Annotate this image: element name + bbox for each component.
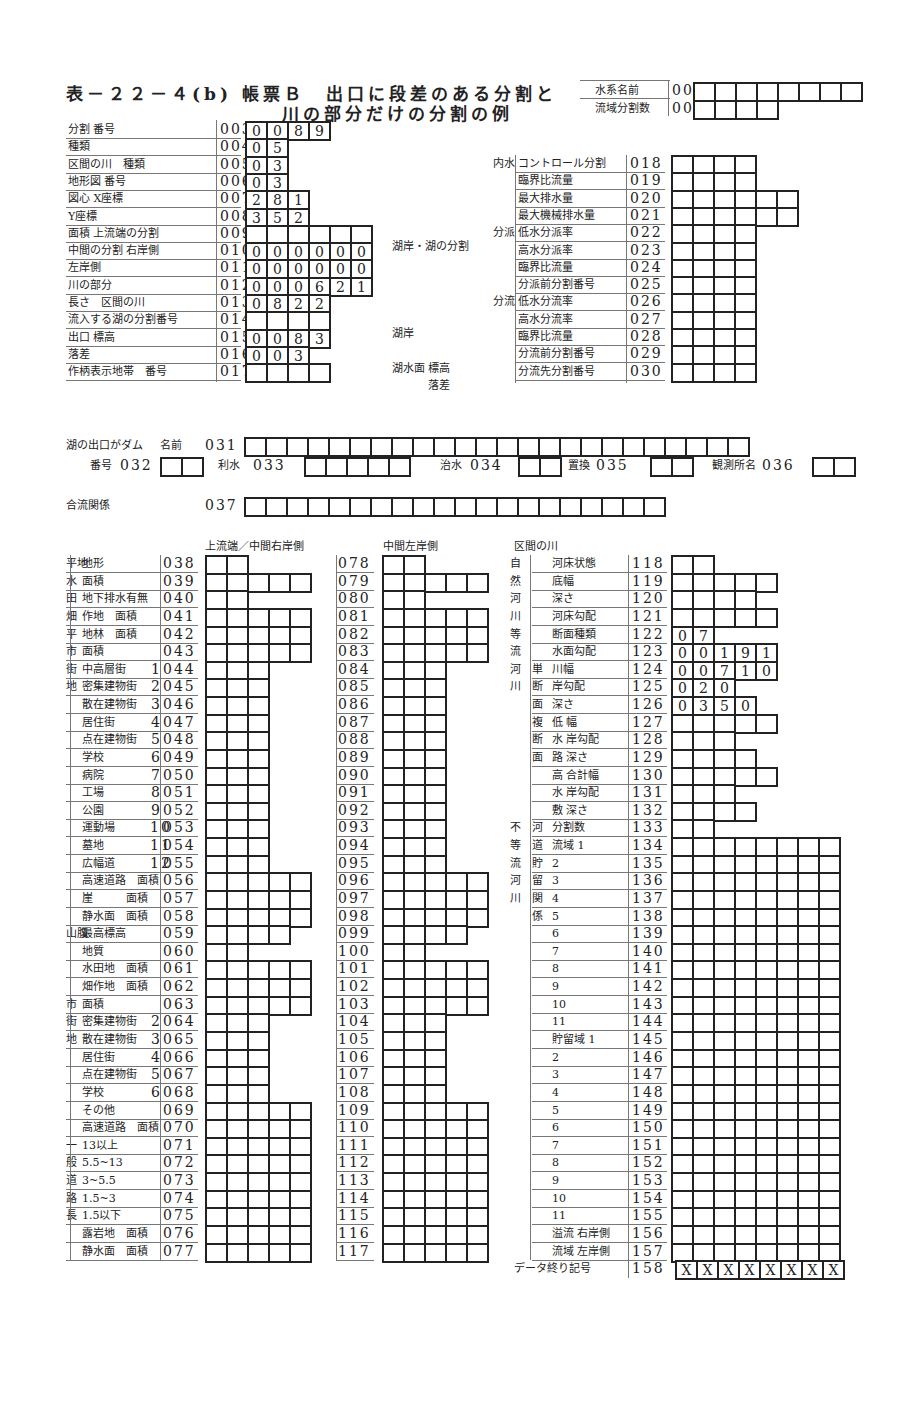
input-cell[interactable] (755, 608, 778, 628)
input-cell[interactable] (391, 497, 414, 517)
input-cell[interactable] (685, 437, 708, 457)
input-cell[interactable] (466, 573, 489, 593)
input-cell[interactable] (798, 82, 821, 102)
input-cell[interactable] (391, 437, 414, 457)
input-cell[interactable] (244, 437, 267, 457)
input-cell[interactable] (445, 996, 468, 1016)
input-cell[interactable] (289, 996, 312, 1016)
input-cell[interactable]: X (738, 1260, 761, 1280)
input-cell[interactable] (706, 437, 729, 457)
input-cell[interactable] (475, 497, 498, 517)
input-cell[interactable] (693, 100, 716, 120)
input-cell[interactable] (286, 497, 309, 517)
input-cell[interactable] (539, 457, 562, 477)
input-cell[interactable] (559, 437, 582, 457)
input-cell[interactable] (445, 573, 468, 593)
input-cell[interactable] (755, 573, 778, 593)
input-cell[interactable] (412, 437, 435, 457)
input-cell[interactable] (735, 82, 758, 102)
input-cell[interactable] (388, 457, 411, 477)
input-cell[interactable] (424, 573, 447, 593)
input-cell[interactable]: X (759, 1260, 782, 1280)
input-cell[interactable] (424, 925, 447, 945)
input-cell[interactable] (559, 497, 582, 517)
input-cell[interactable] (445, 1243, 468, 1263)
input-cell[interactable] (713, 608, 736, 628)
input-cell[interactable] (304, 457, 327, 477)
input-cell[interactable] (755, 767, 778, 787)
input-cell[interactable] (382, 1243, 405, 1263)
input-cell[interactable] (727, 437, 750, 457)
input-cell[interactable] (755, 207, 778, 227)
input-cell[interactable] (286, 437, 309, 457)
input-cell[interactable] (833, 457, 856, 477)
input-cell[interactable] (734, 714, 757, 734)
input-cell[interactable] (819, 82, 842, 102)
input-cell[interactable]: 8 (287, 121, 310, 141)
input-cell[interactable] (247, 573, 270, 593)
input-cell[interactable]: 2 (329, 277, 352, 297)
input-cell[interactable] (601, 497, 624, 517)
input-cell[interactable] (734, 608, 757, 628)
input-cell[interactable] (289, 643, 312, 663)
input-cell[interactable] (735, 100, 758, 120)
input-cell[interactable] (307, 437, 330, 457)
input-cell[interactable] (734, 363, 757, 383)
input-cell[interactable] (714, 82, 737, 102)
input-cell[interactable] (777, 82, 800, 102)
input-cell[interactable] (466, 996, 489, 1016)
input-cell[interactable]: X (696, 1260, 719, 1280)
input-cell[interactable] (713, 363, 736, 383)
input-cell[interactable] (454, 497, 477, 517)
input-cell[interactable] (412, 497, 435, 517)
input-cell[interactable] (664, 437, 687, 457)
input-cell[interactable] (325, 457, 348, 477)
input-cell[interactable] (538, 497, 561, 517)
input-cell[interactable] (812, 457, 835, 477)
input-cell[interactable] (643, 497, 666, 517)
input-cell[interactable] (580, 497, 603, 517)
input-cell[interactable] (205, 1243, 228, 1263)
input-cell[interactable] (268, 996, 291, 1016)
input-cell[interactable] (693, 82, 716, 102)
input-cell[interactable] (433, 437, 456, 457)
input-cell[interactable]: X (801, 1260, 824, 1280)
input-cell[interactable]: 0 (755, 661, 778, 681)
input-cell[interactable] (840, 82, 863, 102)
input-cell[interactable]: X (780, 1260, 803, 1280)
input-cell[interactable] (538, 437, 561, 457)
input-cell[interactable] (346, 457, 369, 477)
input-cell[interactable] (287, 363, 310, 383)
input-cell[interactable] (370, 437, 393, 457)
input-cell[interactable] (403, 1243, 426, 1263)
input-cell[interactable] (268, 643, 291, 663)
input-cell[interactable] (247, 925, 270, 945)
input-cell[interactable] (268, 573, 291, 593)
input-cell[interactable] (622, 497, 645, 517)
input-cell[interactable] (496, 497, 519, 517)
input-cell[interactable] (601, 437, 624, 457)
input-cell[interactable] (671, 363, 694, 383)
input-cell[interactable] (226, 1243, 249, 1263)
input-cell[interactable]: 1 (350, 277, 373, 297)
input-cell[interactable] (713, 802, 736, 822)
input-cell[interactable]: X (675, 1260, 698, 1280)
input-cell[interactable] (349, 437, 372, 457)
input-cell[interactable] (289, 1243, 312, 1263)
input-cell[interactable]: 3 (308, 329, 331, 349)
input-cell[interactable] (370, 497, 393, 517)
input-cell[interactable] (244, 497, 267, 517)
input-cell[interactable] (756, 82, 779, 102)
input-cell[interactable] (622, 437, 645, 457)
input-cell[interactable] (266, 363, 289, 383)
input-cell[interactable] (466, 643, 489, 663)
input-cell[interactable] (692, 363, 715, 383)
input-cell[interactable] (734, 802, 757, 822)
input-cell[interactable] (445, 643, 468, 663)
input-cell[interactable] (755, 714, 778, 734)
input-cell[interactable] (643, 437, 666, 457)
input-cell[interactable] (671, 457, 694, 477)
input-cell[interactable]: X (822, 1260, 845, 1280)
input-cell[interactable] (367, 457, 390, 477)
input-cell[interactable] (289, 908, 312, 928)
